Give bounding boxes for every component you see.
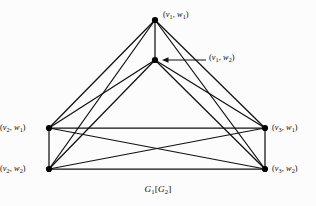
vertex-label-v1w1: (v1, w1)	[163, 11, 189, 19]
graph-drawing	[0, 0, 316, 206]
vertex-label-v3w2: (v3, w2)	[272, 165, 298, 173]
vertex-label-v2w1: (v2, w1)	[0, 124, 10, 132]
graph-edge	[49, 20, 155, 128]
vertex-label-v3w1: (v3, w1)	[272, 124, 298, 132]
annotation-arrow	[162, 57, 206, 63]
graph-edge	[155, 20, 265, 128]
graph-vertex-v1w2	[152, 57, 158, 63]
vertex-label-v2w2: (v2, w2)	[0, 165, 10, 173]
vertex-label-v1w2: (v1, w2)	[209, 54, 235, 62]
graph-vertex-v3w2	[262, 166, 268, 172]
figure-container: (v1, w1)(v1, w2)(v2, w1)(v2, w2)(v3, w1)…	[0, 0, 316, 206]
graph-vertex-v1w1	[152, 17, 158, 23]
graph-edge	[155, 60, 265, 128]
edge-layer	[49, 20, 265, 169]
figure-caption: G1[G2]	[0, 184, 316, 194]
graph-edge	[155, 60, 265, 169]
graph-vertex-v2w1	[46, 125, 52, 131]
graph-edge	[49, 60, 155, 128]
graph-vertex-v2w2	[46, 166, 52, 172]
graph-edge	[49, 60, 155, 169]
graph-vertex-v3w1	[262, 125, 268, 131]
arrow-head-icon	[162, 57, 169, 63]
